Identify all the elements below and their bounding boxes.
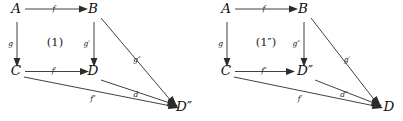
edge-label-right-B-D: g′ <box>344 55 351 64</box>
diagram-canvas: f g g′ f′ <box>0 0 403 121</box>
edge-left-A-C: g <box>8 22 20 67</box>
edge-label-left-B-D: g′ <box>83 39 90 48</box>
commutative-diagram-figure: f g g′ f′ <box>0 0 403 121</box>
edge-left-A-B: f <box>25 4 88 13</box>
edge-label-left-A-B: f <box>52 4 57 13</box>
node-left-Dpp: D″ <box>175 98 192 114</box>
edge-label-right-Dpp-D: d″ <box>340 90 348 99</box>
edge-label-right-C-Dpp: f″ <box>260 66 267 75</box>
node-right-C: C <box>221 62 232 78</box>
node-right-B: B <box>297 0 308 16</box>
node-right-A: A <box>219 0 231 16</box>
edge-right-Dpp-D: d″ <box>315 80 382 106</box>
edge-label-right-B-Dpp: g″ <box>292 39 300 48</box>
node-right-D: D <box>383 98 395 114</box>
edge-left-D-Dpp: d <box>101 80 178 106</box>
edge-label-left-A-C: g <box>8 39 13 48</box>
edge-left-B-D: g′ <box>83 22 97 67</box>
edge-label-left-D-Dpp: d <box>134 90 139 99</box>
node-left-A: A <box>9 0 21 16</box>
diagram-left: f g g′ f′ <box>8 0 192 114</box>
edge-right-A-C: g <box>218 22 230 67</box>
edge-label-left-C-D: f′ <box>51 66 57 75</box>
region-label-right: (1″) <box>256 35 277 49</box>
region-label-left: (1) <box>47 35 63 49</box>
edge-label-left-B-Dpp: g″ <box>133 55 141 64</box>
node-right-Dpp: D″ <box>296 62 313 78</box>
edge-right-B-Dpp: g″ <box>292 22 307 67</box>
node-left-D: D <box>87 62 99 78</box>
edge-right-C-Dpp: f″ <box>235 66 295 75</box>
edge-label-left-C-Dpp: f″ <box>89 94 96 103</box>
node-left-B: B <box>87 0 98 16</box>
edge-label-right-C-D: f′ <box>297 94 303 103</box>
edge-left-C-D: f′ <box>25 66 89 75</box>
node-left-C: C <box>11 62 22 78</box>
edge-right-A-B: f <box>235 4 298 13</box>
diagram-right: f g g″ f″ <box>218 0 394 114</box>
edge-label-right-A-B: f <box>262 4 267 13</box>
edge-left-C-Dpp: f″ <box>24 77 179 109</box>
edge-label-right-A-C: g <box>218 39 223 48</box>
